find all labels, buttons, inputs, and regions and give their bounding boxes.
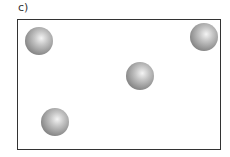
sphere-particle [41, 108, 69, 136]
sphere-particle [126, 62, 154, 90]
sphere-particle [190, 23, 218, 51]
sphere-particle [25, 27, 53, 55]
figure-label: c) [18, 1, 28, 14]
